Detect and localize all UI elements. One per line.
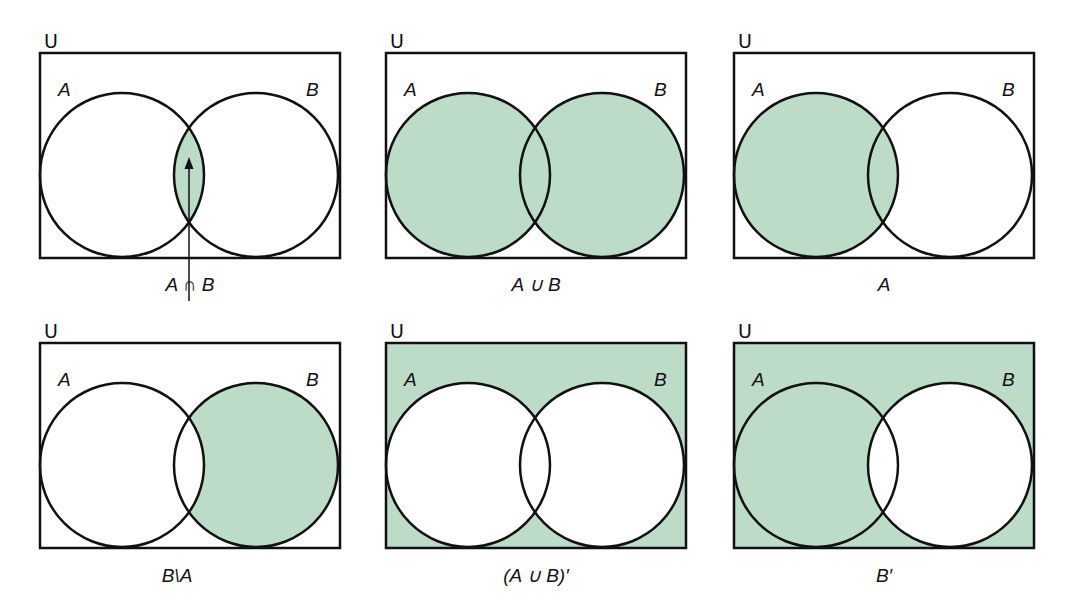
caption-union-complement: (A ∪ B)′	[503, 565, 570, 586]
set-a-label: A	[751, 369, 765, 390]
caption-intersection: A ∩ B	[165, 274, 215, 295]
venn-panel-b-complement	[734, 343, 1034, 548]
set-b-label: B	[306, 369, 319, 390]
venn-panel-union	[386, 53, 686, 258]
shaded-region	[734, 343, 1034, 548]
venn-panel-difference	[40, 343, 340, 548]
universe-label: U	[390, 30, 404, 52]
set-a-label: A	[403, 369, 417, 390]
universe-label: U	[44, 320, 58, 342]
shaded-region	[386, 343, 686, 548]
set-a-label: A	[403, 79, 417, 100]
caption-set-a: A	[877, 274, 891, 295]
set-a-label: A	[751, 79, 765, 100]
venn-panel-set-a	[734, 53, 1034, 258]
universe-label: U	[738, 30, 752, 52]
venn-diagram-grid: U U U U U U A B A B A B A B A B A B A ∩ …	[0, 0, 1072, 609]
caption-difference: B\A	[162, 565, 193, 586]
venn-panel-union-complement	[386, 343, 686, 548]
caption-union: A ∪ B	[510, 274, 561, 295]
universe-label: U	[390, 320, 404, 342]
caption-b-complement: B′	[876, 565, 894, 586]
set-b-label: B	[654, 79, 667, 100]
venn-panel-intersection	[40, 53, 340, 301]
set-a-label: A	[57, 369, 71, 390]
set-b-label: B	[1002, 79, 1015, 100]
universe-label: U	[738, 320, 752, 342]
set-b-label: B	[654, 369, 667, 390]
set-b-label: B	[1002, 369, 1015, 390]
universe-label: U	[44, 30, 58, 52]
set-b-label: B	[306, 79, 319, 100]
set-a-label: A	[57, 79, 71, 100]
